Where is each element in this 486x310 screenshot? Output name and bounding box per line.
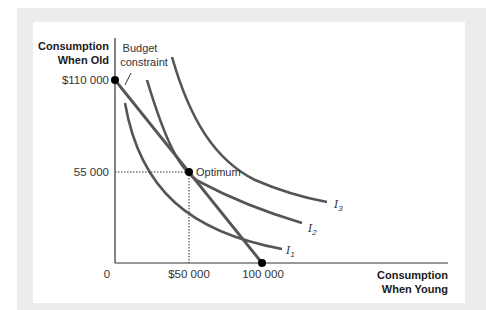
y-axis-title-line1: Consumption: [38, 40, 109, 52]
indifference-curve-i2: [147, 80, 302, 223]
x-tick-0: 0: [104, 268, 110, 280]
y-tick-55000: 55 000: [74, 166, 109, 178]
x-tick-50000: $50 000: [168, 268, 210, 280]
budget-leader-line: [125, 73, 131, 85]
x-axis-title-line2: When Young: [382, 283, 448, 295]
budget-label-line2: constraint: [120, 56, 168, 68]
y-axis-title-line2: When Old: [58, 54, 109, 66]
x-intercept-dot: [258, 259, 266, 267]
curve-label-i2: I2: [307, 222, 317, 237]
optimum-dot: [185, 168, 193, 176]
y-tick-110000: $110 000: [62, 74, 109, 86]
optimum-label: Optimum: [196, 166, 241, 178]
y-intercept-dot: [111, 76, 119, 84]
curve-label-i3: I3: [333, 198, 343, 213]
chart-svg: Consumption When Old $110 000 55 000 0 $…: [0, 0, 486, 310]
budget-label-line1: Budget: [123, 42, 158, 54]
x-tick-100000: 100 000: [242, 268, 284, 280]
curve-label-i1: I1: [285, 244, 295, 259]
x-axis-title-line1: Consumption: [377, 269, 448, 281]
